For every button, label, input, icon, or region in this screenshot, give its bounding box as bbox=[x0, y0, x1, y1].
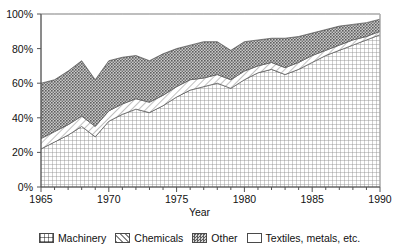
x-axis-title: Year bbox=[0, 206, 399, 218]
legend-swatch-machinery-icon bbox=[39, 233, 54, 243]
legend-swatch-other-icon bbox=[192, 233, 207, 243]
x-axis-tick-label: 1975 bbox=[157, 194, 197, 205]
legend-label-machinery: Machinery bbox=[58, 232, 106, 244]
stacked-area-chart: 0% 20% 40% 60% 80% 100% 1965 1970 1975 1… bbox=[0, 0, 399, 251]
chart-legend: Machinery Chemicals Other Textiles, meta… bbox=[0, 229, 399, 247]
y-axis-tick-label: 20% bbox=[0, 147, 33, 158]
y-axis-tick-label: 80% bbox=[0, 44, 33, 55]
legend-item-machinery: Machinery bbox=[39, 232, 106, 244]
y-axis-tick-label: 100% bbox=[0, 9, 33, 20]
x-axis-tick-label: 1970 bbox=[89, 194, 129, 205]
x-axis-tick-label: 1985 bbox=[292, 194, 332, 205]
legend-swatch-textiles-icon bbox=[247, 233, 262, 243]
x-axis-tick-label: 1965 bbox=[21, 194, 61, 205]
y-axis-tick-label: 60% bbox=[0, 78, 33, 89]
y-axis-tick-label: 40% bbox=[0, 113, 33, 124]
legend-label-textiles: Textiles, metals, etc. bbox=[266, 232, 361, 244]
x-axis-tick-label: 1980 bbox=[224, 194, 264, 205]
legend-item-chemicals: Chemicals bbox=[115, 232, 183, 244]
x-axis-tick-label: 1990 bbox=[360, 194, 399, 205]
legend-item-other: Other bbox=[192, 232, 237, 244]
legend-label-chemicals: Chemicals bbox=[134, 232, 183, 244]
legend-swatch-chemicals-icon bbox=[115, 233, 130, 243]
y-axis-tick-label: 0% bbox=[0, 182, 33, 193]
legend-label-other: Other bbox=[211, 232, 237, 244]
legend-item-textiles: Textiles, metals, etc. bbox=[247, 232, 361, 244]
